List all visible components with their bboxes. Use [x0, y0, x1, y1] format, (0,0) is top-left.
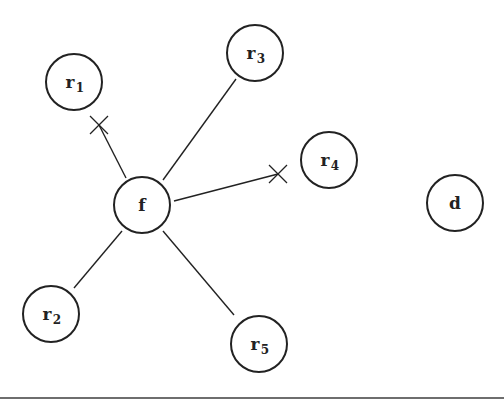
bottom-border-line [0, 397, 504, 399]
node-label: r [321, 150, 331, 170]
node-subscript: 4 [331, 159, 339, 173]
edge-line [99, 125, 126, 178]
blocked-cross-icon [269, 165, 287, 183]
edge-f-r4 [174, 165, 287, 201]
node-label: d [449, 193, 461, 213]
edges-layer [74, 79, 287, 315]
nodes-layer: fr1r2r3r4r5d [23, 25, 483, 372]
node-subscript: 3 [257, 52, 265, 66]
node-r5: r5 [231, 316, 287, 372]
node-subscript: 5 [261, 343, 269, 357]
edge-line [163, 79, 236, 180]
edge-line [174, 174, 278, 201]
node-r1: r1 [46, 54, 102, 110]
edge-f-r5 [163, 231, 234, 315]
edge-f-r3 [163, 79, 236, 180]
node-label: r [66, 72, 76, 92]
blocked-cross-icon [90, 116, 108, 134]
node-subscript: 2 [53, 313, 61, 327]
node-label: r [43, 304, 53, 324]
edge-line [163, 231, 234, 315]
node-r3: r3 [227, 25, 283, 81]
node-label: r [251, 334, 261, 354]
edge-f-r2 [74, 231, 122, 288]
node-label: r [247, 43, 257, 63]
node-r2: r2 [23, 286, 79, 342]
edge-line [74, 231, 122, 288]
node-f: f [114, 177, 170, 233]
node-subscript: 1 [76, 81, 84, 95]
edge-f-r1 [90, 116, 126, 178]
network-diagram: fr1r2r3r4r5d [0, 0, 504, 400]
node-r4: r4 [301, 132, 357, 188]
node-d: d [427, 175, 483, 231]
